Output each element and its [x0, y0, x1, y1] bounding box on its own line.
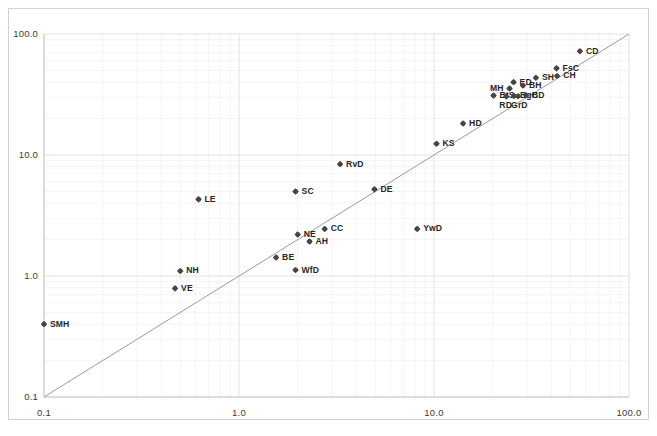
data-point-label: MH	[490, 83, 504, 93]
data-point-label: BE	[282, 252, 294, 262]
data-point-label: YwD	[423, 223, 442, 233]
x-tick-label: 10.0	[404, 407, 464, 418]
x-tick-label: 1.0	[209, 407, 269, 418]
data-point-label: SMH	[50, 319, 69, 329]
data-point-label: CH	[563, 70, 576, 80]
data-point-label: SC	[302, 186, 314, 196]
data-point-label: RD	[499, 100, 512, 110]
y-tick-label: 10.0	[0, 149, 38, 160]
data-point-label: SH	[542, 72, 554, 82]
data-point-label: GrD	[511, 100, 528, 110]
data-point-label: VE	[181, 283, 193, 293]
scatter-plot-canvas	[9, 9, 650, 421]
data-point-label: HD	[469, 118, 482, 128]
data-point-label: CD	[586, 46, 599, 56]
data-point-label: BH	[529, 80, 542, 90]
data-point-label: BD	[532, 90, 545, 100]
y-tick-label: 1.0	[0, 270, 38, 281]
chart-figure: 0.11.010.0100.00.11.010.0100.0 SMHVENHLE…	[8, 8, 649, 420]
data-point-label: NH	[186, 265, 199, 275]
y-tick-label: 0.1	[0, 391, 38, 402]
data-point-label: CC	[331, 223, 344, 233]
x-tick-label: 0.1	[14, 407, 74, 418]
data-point-label: NE	[304, 229, 316, 239]
data-point-label: WfD	[302, 265, 319, 275]
x-tick-label: 100.0	[599, 407, 657, 418]
data-point-label: LE	[205, 194, 216, 204]
data-point-label: RvD	[346, 159, 364, 169]
data-point-label: AH	[316, 236, 329, 246]
y-tick-label: 100.0	[0, 28, 38, 39]
data-point-label: DE	[380, 184, 392, 194]
data-point-label: KS	[443, 138, 455, 148]
